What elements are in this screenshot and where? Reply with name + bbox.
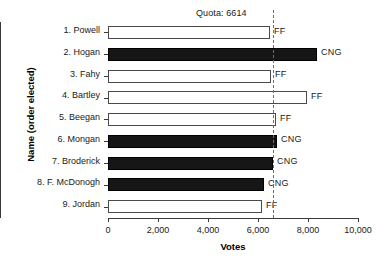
category-label: 1. Powell — [63, 25, 100, 35]
x-axis-line — [108, 218, 359, 219]
category-label: 6. Mongan — [57, 134, 100, 144]
bar[interactable] — [108, 48, 317, 61]
bar-row: 3. FahyFF — [108, 66, 358, 88]
bar-party-label: CNG — [321, 47, 342, 57]
bar-party-label: CNG — [268, 178, 289, 188]
bar-row: 9. JordanFF — [108, 196, 358, 218]
bar-row: 8. F. McDonoghCNG — [108, 174, 358, 196]
bar-party-label: FF — [280, 113, 291, 123]
bar-row: 5. BeeganFF — [108, 109, 358, 131]
x-axis-tick — [308, 218, 309, 222]
bar-party-label: FF — [311, 91, 322, 101]
quota-threshold-line — [273, 10, 274, 218]
category-label: 3. Fahy — [70, 69, 100, 79]
bar[interactable] — [108, 70, 271, 83]
bar[interactable] — [108, 113, 276, 126]
x-axis-tick-label: 8,000 — [297, 225, 320, 235]
bar[interactable] — [108, 135, 277, 148]
category-label: 8. F. McDonogh — [37, 177, 100, 187]
x-axis-tick — [108, 218, 109, 222]
bar[interactable] — [108, 26, 270, 39]
bar[interactable] — [108, 178, 264, 191]
x-axis-tick-label: 6,000 — [247, 225, 270, 235]
bar-party-label: FF — [275, 69, 286, 79]
x-axis-tick-label: 10,000 — [344, 225, 372, 235]
y-axis-line — [0, 22, 1, 218]
bar[interactable] — [108, 200, 262, 213]
category-label: 7. Broderick — [52, 156, 100, 166]
bar-party-label: FF — [266, 200, 277, 210]
category-label: 2. Hogan — [63, 47, 100, 57]
x-axis-tick — [258, 218, 259, 222]
plot-area: 1. PowellFF2. HoganCNG3. FahyFF4. Bartle… — [108, 22, 358, 218]
bar-party-label: CNG — [281, 134, 302, 144]
x-axis-tick-label: 4,000 — [197, 225, 220, 235]
category-label: 4. Bartley — [62, 90, 100, 100]
x-axis-tick — [158, 218, 159, 222]
bar-row: 2. HoganCNG — [108, 44, 358, 66]
bar-party-label: CNG — [277, 156, 298, 166]
chart-title: Quota: 6614 — [196, 8, 247, 18]
category-label: 5. Beegan — [59, 112, 100, 122]
bar-row: 7. BroderickCNG — [108, 153, 358, 175]
bar[interactable] — [108, 91, 307, 104]
bar[interactable] — [108, 157, 273, 170]
bar-row: 6. MonganCNG — [108, 131, 358, 153]
bar-party-label: FF — [274, 26, 285, 36]
x-axis-tick — [358, 218, 359, 222]
x-axis-tick-label: 2,000 — [147, 225, 170, 235]
x-axis-label: Votes — [108, 241, 358, 252]
x-axis-tick — [208, 218, 209, 222]
y-axis-label: Name (order elected) — [25, 40, 36, 190]
category-label: 9. Jordan — [62, 199, 100, 209]
bar-chart: Quota: 6614 Name (order elected) 1. Powe… — [0, 0, 385, 263]
bar-row: 4. BartleyFF — [108, 87, 358, 109]
x-axis-tick-label: 0 — [105, 225, 110, 235]
bar-row: 1. PowellFF — [108, 22, 358, 44]
